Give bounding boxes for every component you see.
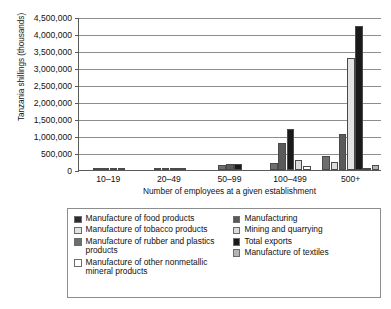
legend-item[interactable]: Manufacture of rubber and plastics produ… (74, 237, 233, 257)
y-axis-tick-label: 1,000,000 (34, 132, 72, 142)
legend-item-label: Manufacture of other nonmetallic mineral… (86, 258, 233, 278)
legend-item-label: Manufacture of textiles (244, 248, 328, 258)
legend-swatch-icon (233, 238, 241, 246)
x-axis-title: Number of employees at a given establish… (78, 186, 381, 196)
legend-item-label: Manufacturing (244, 214, 297, 224)
bar (110, 168, 118, 170)
bar (295, 160, 303, 170)
legend-item[interactable]: Manufacture of textiles (233, 248, 376, 258)
legend-swatch-icon (74, 238, 82, 246)
bar-group (321, 18, 381, 170)
bar (118, 168, 126, 170)
bar (331, 162, 339, 170)
bar (226, 164, 234, 170)
bar (162, 168, 170, 170)
bar (93, 168, 101, 170)
bars-layer (79, 18, 381, 170)
plot-area (78, 18, 381, 171)
bar-group (79, 18, 139, 170)
x-axis-tick-label: 100–499 (260, 174, 321, 184)
y-axis-tick-label: 3,500,000 (34, 47, 72, 57)
legend-swatch-icon (74, 227, 82, 235)
y-axis-tick-label: 2,000,000 (34, 98, 72, 108)
bar-group (139, 18, 199, 170)
legend-item-label: Manufacture of tobacco products (86, 225, 208, 235)
y-axis-tick-label: 4,000,000 (34, 30, 72, 40)
bar (278, 143, 286, 170)
bar (322, 156, 330, 170)
legend-swatch-icon (233, 227, 241, 235)
bar-group (260, 18, 320, 170)
legend-item[interactable]: Manufacturing (233, 214, 376, 224)
x-axis-tick-label: 500+ (320, 174, 381, 184)
x-axis-tick-labels: 10–1920–4950–99100–499500+ (78, 174, 381, 184)
y-axis-tick-label: 500,000 (41, 149, 72, 159)
bar (372, 165, 380, 170)
chart-legend: Manufacture of food productsManufacture … (67, 208, 381, 298)
bar (101, 168, 109, 170)
bar-group (200, 18, 260, 170)
bar (154, 168, 162, 170)
bar (178, 168, 186, 170)
x-axis-tick-label: 10–19 (78, 174, 139, 184)
legend-swatch-icon (233, 249, 241, 257)
legend-item[interactable]: Manufacture of tobacco products (74, 225, 233, 235)
bar (339, 134, 347, 170)
legend-swatch-icon (74, 216, 82, 224)
y-axis-tick-label: 4,500,000 (34, 13, 72, 23)
legend-item[interactable]: Manufacture of food products (74, 214, 233, 224)
legend-swatch-icon (74, 259, 82, 267)
legend-item-label: Mining and quarrying (244, 225, 322, 235)
legend-item[interactable]: Manufacture of other nonmetallic mineral… (74, 258, 233, 278)
bar (347, 58, 355, 170)
plot-frame (78, 18, 381, 171)
bar (363, 168, 371, 170)
bar (355, 26, 363, 171)
y-axis-tick-label: 0 (67, 166, 72, 176)
legend-column-left: Manufacture of food productsManufacture … (74, 214, 233, 293)
legend-item[interactable]: Mining and quarrying (233, 225, 376, 235)
x-axis-tick-label: 50–99 (199, 174, 260, 184)
bar (234, 164, 242, 170)
y-axis-tick-label: 2,500,000 (34, 81, 72, 91)
y-axis-tick-labels: 4,500,0004,000,0003,500,0003,000,0002,50… (0, 18, 72, 171)
y-axis-tick-label: 1,500,000 (34, 115, 72, 125)
legend-swatch-icon (233, 216, 241, 224)
y-axis-tick (75, 171, 79, 172)
bar (218, 165, 226, 170)
y-axis-tick-label: 3,000,000 (34, 64, 72, 74)
legend-item[interactable]: Total exports (233, 237, 376, 247)
chart-figure: Tanzania shillings (thousands) 4,500,000… (0, 0, 391, 309)
legend-column-right: ManufacturingMining and quarryingTotal e… (233, 214, 376, 293)
legend-item-label: Manufacture of rubber and plastics produ… (86, 237, 233, 257)
legend-item-label: Manufacture of food products (86, 214, 195, 224)
bar (287, 129, 295, 170)
bar (170, 168, 178, 170)
bar (270, 163, 278, 170)
bar (303, 166, 311, 170)
x-axis-tick-label: 20–49 (139, 174, 200, 184)
legend-item-label: Total exports (244, 237, 291, 247)
